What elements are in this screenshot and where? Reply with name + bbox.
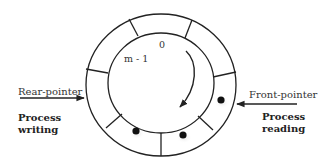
- data-dot-icon: [217, 96, 224, 103]
- circular-buffer-diagram: 0 m - 1 Rear-pointer Process writing Fro…: [0, 0, 319, 158]
- data-dot-icon: [132, 127, 139, 134]
- process-writing-line2: writing: [17, 124, 58, 135]
- rear-pointer-label: Rear-pointer: [18, 86, 83, 97]
- process-reading-line1: Process: [262, 111, 306, 122]
- divider-bottom-left: [106, 114, 122, 128]
- slot-label-0: 0: [159, 39, 165, 50]
- buffer-ring: [86, 14, 236, 156]
- filled-slot: [176, 131, 192, 143]
- filled-slot: [214, 96, 230, 108]
- process-writing-line1: Process: [18, 112, 62, 123]
- data-dot-icon: [179, 131, 186, 138]
- divider-top-left: [129, 19, 138, 36]
- divider-top-right: [185, 20, 192, 38]
- filled-slot: [129, 127, 145, 139]
- slot-label-m-1: m - 1: [124, 53, 148, 64]
- divider-bottom-right: [198, 116, 213, 130]
- divider-right: [213, 72, 236, 77]
- process-reading-line2: reading: [262, 123, 305, 134]
- divider-left: [86, 69, 108, 73]
- direction-arrow-icon: [180, 51, 194, 107]
- front-pointer-label: Front-pointer: [249, 89, 318, 100]
